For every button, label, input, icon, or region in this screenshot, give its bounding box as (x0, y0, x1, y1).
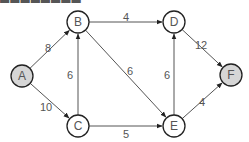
node-c: C (67, 115, 89, 137)
node-label: E (170, 119, 178, 133)
edge-weight-c-e: 5 (123, 128, 129, 140)
edge-weight-e-f: 4 (199, 96, 205, 108)
edge-weight-b-d: 4 (123, 11, 129, 23)
edge-weight-a-c: 10 (40, 101, 52, 113)
node-d: D (163, 11, 185, 33)
node-label: F (227, 68, 234, 82)
edge-weight-a-b: 8 (45, 42, 51, 54)
node-label: A (18, 69, 26, 83)
node-b: B (67, 11, 89, 33)
edge-weight-d-f: 12 (195, 39, 207, 51)
node-e: E (163, 115, 185, 137)
edge-weight-c-b: 6 (67, 69, 73, 81)
node-a: A (11, 65, 33, 87)
graph-diagram: 81064656124 ABCDEF (0, 0, 249, 142)
edge-b-e (85, 30, 165, 117)
edge-weight-b-e: 6 (127, 65, 133, 77)
node-f: F (220, 64, 242, 86)
node-label: B (74, 15, 82, 29)
node-label: C (74, 119, 83, 133)
node-label: D (170, 15, 179, 29)
graph-canvas: 81064656124 ABCDEF (0, 0, 249, 142)
edge-weight-e-d: 6 (164, 69, 170, 81)
